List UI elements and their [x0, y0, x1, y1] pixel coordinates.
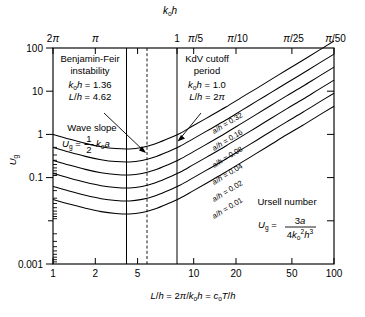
x-tick-label-5: 5	[135, 268, 141, 279]
kdv-line1: KdV cutoff	[185, 53, 229, 64]
y-tick-label-0.001: 0.001	[18, 259, 43, 270]
x-tick-label-100: 100	[326, 268, 343, 279]
bf-line4: L/h = 4.62	[69, 91, 112, 102]
svg-text:koa: koa	[96, 138, 110, 150]
annotation-ursell: Ursell number Ug = 3a 4ko2h3	[257, 196, 316, 241]
chart-svg: koh 2π π 1 π/5 π/10 π/25 π/50	[0, 0, 365, 317]
svg-text:1: 1	[86, 133, 91, 144]
bottom-axis: 1 2 5 10 20 50 100	[50, 258, 343, 279]
kdv-line2: period	[194, 65, 220, 76]
curve-labels: a/h = 0.32 a/h = 0.16 a/h = 0.08 a/h = 0…	[210, 110, 244, 220]
svg-text:3a: 3a	[295, 215, 306, 226]
y-tick-label-100: 100	[26, 43, 43, 54]
svg-text:Ug =: Ug =	[62, 138, 81, 151]
svg-text:L/h = 2π/koh = coT/h: L/h = 2π/koh = coT/h	[150, 290, 235, 302]
kdv-line4: L/h = 2π	[189, 91, 225, 102]
annotation-wave-slope: Wave slope Ug = 1 2 koa	[62, 122, 117, 155]
kdv-arrowhead	[178, 135, 186, 142]
right-axis	[327, 91, 334, 221]
svg-text:koh: koh	[163, 5, 178, 17]
svg-text:Ug =: Ug =	[258, 219, 277, 232]
top-tick-label-6: π/25	[283, 33, 304, 44]
reference-lines	[127, 48, 178, 264]
kdv-line3: koh = 1.0	[188, 79, 226, 91]
svg-text:Ug: Ug	[7, 154, 20, 165]
y-tick-label-10: 10	[32, 86, 44, 97]
top-axis: 2π π 1 π/5 π/10 π/25 π/50	[47, 33, 346, 54]
left-minor-ticks	[53, 147, 57, 262]
top-axis-title: koh	[163, 5, 178, 17]
x-tick-label-2: 2	[93, 268, 99, 279]
top-tick-label-1: π	[92, 33, 99, 44]
top-tick-label-5: π/10	[227, 33, 248, 44]
x-tick-label-20: 20	[230, 268, 242, 279]
x-tick-label-1: 1	[50, 268, 56, 279]
y-tick-label-0.1: 0.1	[29, 172, 43, 183]
bf-line1: Benjamin-Feir	[60, 53, 119, 64]
y-tick-label-1: 1	[37, 129, 43, 140]
x-tick-label-50: 50	[286, 268, 298, 279]
x-tick-label-10: 10	[188, 268, 200, 279]
svg-text:4ko2h3: 4ko2h3	[287, 228, 314, 241]
y-axis-title: Ug	[7, 154, 20, 165]
wave-slope-line1: Wave slope	[67, 122, 116, 133]
x-axis-title: L/h = 2π/koh = coT/h	[150, 290, 235, 302]
left-axis: 100 10 1 0.1 0.001	[18, 43, 57, 270]
svg-text:2: 2	[86, 144, 91, 155]
top-tick-label-3: 1	[174, 33, 180, 44]
ursell-number-chart: koh 2π π 1 π/5 π/10 π/25 π/50	[0, 0, 365, 317]
ursell-line1: Ursell number	[257, 196, 316, 207]
ursell-formula: Ug = 3a 4ko2h3	[258, 215, 316, 241]
top-tick-label-0: 2π	[47, 33, 60, 44]
top-tick-label-7: π/50	[325, 33, 346, 44]
top-tick-label-4: π/5	[188, 33, 203, 44]
bf-line2: instability	[70, 65, 109, 76]
bf-line3: koh = 1.36	[68, 79, 111, 91]
